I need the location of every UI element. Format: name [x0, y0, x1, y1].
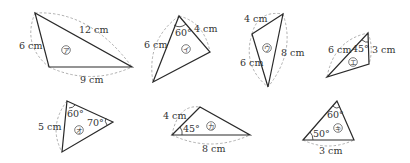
label-60deg: 60° [67, 108, 84, 119]
triangle-e-shape [327, 33, 369, 77]
label-70deg: 70° [87, 117, 104, 128]
label-3cm: 3 cm [319, 145, 342, 156]
label-45deg: 45° [183, 123, 200, 134]
label-60deg: 60° [175, 27, 192, 38]
triangle-u: 4 cm 6 cm 8 cm ウ [240, 13, 304, 87]
label-50deg: 50° [313, 128, 330, 139]
label-4cm: 4 cm [194, 23, 217, 34]
mark-ka: カ [208, 123, 215, 131]
triangle-i: 60° 6 cm 4 cm イ [144, 16, 217, 82]
angle-arc-45 [362, 40, 368, 42]
label-12cm: 12 cm [79, 24, 108, 35]
mark-ki: キ [335, 125, 342, 133]
label-8cm: 8 cm [281, 47, 304, 58]
label-3cm: 3 cm [372, 44, 395, 55]
label-6cm: 6 cm [328, 44, 351, 55]
label-9cm: 9 cm [80, 74, 103, 85]
mark-o: オ [76, 127, 83, 135]
label-6cm: 6 cm [19, 40, 42, 51]
label-4cm: 4 cm [163, 110, 186, 121]
triangle-a-shape [35, 13, 132, 67]
label-6cm: 6 cm [240, 57, 263, 68]
label-45deg: 45° [352, 43, 369, 54]
triangles-figure: 12 cm 6 cm 9 cm ア 60° 6 cm 4 cm イ 4 cm 6… [0, 0, 410, 163]
triangle-ki: 60° 50° 3 cm キ [303, 101, 354, 156]
triangle-o: 60° 70° 5 cm オ [38, 101, 113, 152]
label-60deg: 60° [327, 109, 344, 120]
label-5cm: 5 cm [38, 121, 61, 132]
mark-u: ウ [264, 45, 271, 53]
mark-i: イ [183, 46, 190, 54]
mark-e: エ [350, 59, 357, 67]
triangle-ka: 45° 4 cm 8 cm カ [163, 107, 250, 154]
mark-a: ア [63, 47, 70, 55]
label-8cm: 8 cm [202, 143, 225, 154]
label-6cm: 6 cm [144, 39, 167, 50]
triangle-a: 12 cm 6 cm 9 cm ア [19, 13, 132, 85]
triangle-e: 45° 6 cm 3 cm エ [327, 33, 395, 77]
angle-arc-45 [180, 127, 182, 135]
label-4cm: 4 cm [244, 13, 267, 24]
